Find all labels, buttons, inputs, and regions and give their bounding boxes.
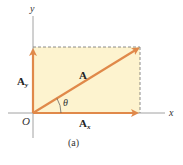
- vector-ay-letter: A: [17, 75, 25, 87]
- figure-caption: (a): [68, 138, 79, 148]
- vector-a-label: A: [79, 70, 87, 81]
- vector-ax-subscript: x: [87, 123, 91, 131]
- vector-ay-subscript: y: [25, 81, 28, 89]
- origin-label: O: [22, 116, 30, 127]
- x-axis-label: x: [169, 108, 173, 118]
- vector-ax-label: Ax: [79, 118, 90, 131]
- vector-ax-letter: A: [79, 117, 87, 129]
- y-axis-label: y: [30, 4, 34, 14]
- vector-ay-label: Ay: [17, 76, 28, 89]
- angle-theta-label: θ: [63, 98, 68, 108]
